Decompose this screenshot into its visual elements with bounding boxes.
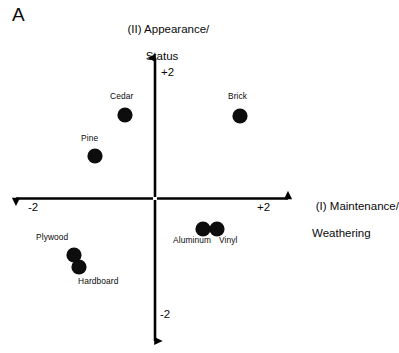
point-label-hardboard: Hardboard	[78, 277, 118, 287]
data-point-hardboard	[71, 259, 86, 274]
axis-lines	[16, 58, 288, 341]
x-axis-title-line1: (I) Maintenance/	[316, 200, 399, 212]
point-label-vinyl: Vinyl	[219, 236, 238, 246]
data-point-brick	[232, 108, 247, 123]
x-axis-tick-label-negative: -2	[28, 201, 38, 215]
point-label-brick: Brick	[228, 92, 247, 102]
x-axis-tick-label-positive: +2	[257, 201, 270, 215]
x-axis-title-line2: Weathering	[312, 227, 397, 241]
point-label-plywood: Plywood	[36, 233, 68, 243]
y-axis-title-line1: (II) Appearance/	[127, 23, 209, 35]
y-axis-title-line2: Status	[97, 50, 227, 64]
data-point-pine	[87, 148, 102, 163]
point-label-pine: Pine	[81, 134, 98, 144]
data-point-cedar	[117, 107, 132, 122]
y-axis-tick-label-negative: -2	[160, 308, 170, 322]
point-label-cedar: Cedar	[110, 92, 133, 102]
x-axis-title: (I) Maintenance/ Weathering	[303, 186, 397, 267]
point-label-aluminum: Aluminum	[173, 236, 211, 246]
panel-label: A	[12, 4, 25, 26]
y-axis-tick-label-positive: +2	[161, 66, 174, 80]
